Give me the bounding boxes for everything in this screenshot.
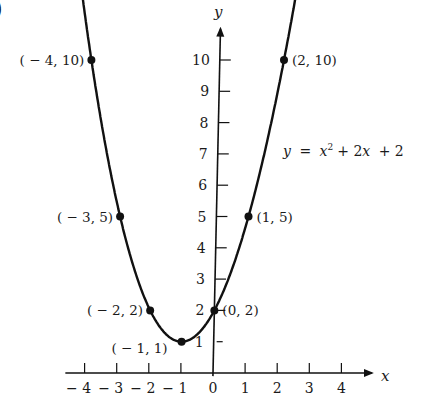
y-tick-label: 4 (197, 240, 206, 256)
data-point (210, 306, 218, 314)
y-tick-label: 10 (192, 52, 210, 68)
equation-label: y = x2+ 2x + 2 (282, 142, 404, 159)
x-tick-label: 4 (337, 380, 346, 396)
x-tick-label: − 1 (162, 380, 187, 396)
parabola-chart: ( − 4, 10)( − 3, 5)( − 2, 2)( − 1, 1)(0,… (0, 0, 421, 398)
x-tick-label: 0 (209, 380, 218, 396)
y-tick-label: 5 (197, 209, 206, 225)
point-label: ( − 1, 1) (111, 340, 167, 356)
point-label: ( − 4, 10) (20, 52, 85, 68)
equation-lhs: y (282, 143, 292, 159)
point-label: ( − 3, 5) (57, 209, 113, 225)
x-axis-label: x (381, 367, 390, 385)
y-tick-label: 1 (195, 334, 204, 350)
x-tick-label: − 2 (130, 380, 155, 396)
x-tick-label: 2 (273, 380, 282, 396)
y-tick-label: 8 (200, 115, 209, 131)
y-tick-label: 2 (195, 302, 204, 318)
x-tick-label: 1 (241, 380, 250, 396)
data-point (280, 56, 288, 64)
y-tick-label: 9 (200, 83, 209, 99)
data-points: ( − 4, 10)( − 3, 5)( − 2, 2)( − 1, 1)(0,… (20, 52, 337, 356)
data-point (245, 213, 253, 221)
y-tick-label: 6 (198, 177, 207, 193)
point-label: (0, 2) (222, 302, 258, 318)
y-tick-label: 7 (199, 146, 208, 162)
x-tick-label: − 3 (98, 380, 123, 396)
point-label: (1, 5) (257, 209, 293, 225)
y-axis (213, 29, 221, 376)
y-tick-label: 3 (196, 271, 205, 287)
data-point (178, 338, 186, 346)
y-axis-label: y (213, 3, 223, 21)
point-label: (2, 10) (292, 52, 337, 68)
point-label: ( − 2, 2) (87, 302, 143, 318)
axes (65, 29, 372, 376)
data-point (87, 56, 95, 64)
x-tick-label: 3 (305, 380, 314, 396)
data-point (146, 306, 154, 314)
x-tick-label: − 4 (66, 380, 91, 396)
data-point (116, 213, 124, 221)
